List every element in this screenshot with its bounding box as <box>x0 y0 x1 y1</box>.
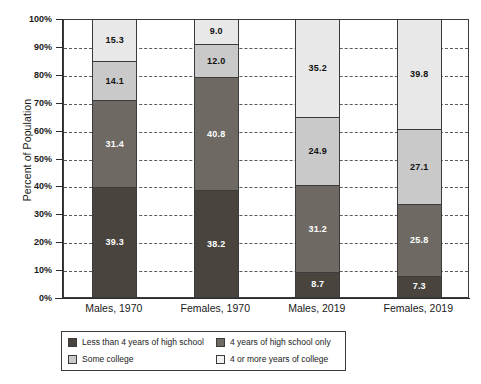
bar-segment[interactable]: 8.7 <box>296 273 339 297</box>
bar-segment-value-label: 8.7 <box>311 280 324 289</box>
legend-swatch <box>68 355 77 364</box>
legend-item[interactable]: 4 years of high school only <box>216 338 353 347</box>
x-axis-category-label: Males, 1970 <box>63 302 165 314</box>
y-axis-tick <box>56 270 62 271</box>
y-axis-tick-label: 70% <box>18 98 52 108</box>
y-axis-tick-label: 60% <box>18 126 52 136</box>
legend-label: Some college <box>82 355 134 364</box>
stacked-bar-chart: Percent of Population 0%10%20%30%40%50%6… <box>0 0 481 384</box>
bar-segment[interactable]: 31.4 <box>93 101 136 188</box>
bar-group: 9.012.040.838.2 <box>166 20 268 297</box>
legend-label: 4 or more years of college <box>230 355 328 364</box>
bar-segment[interactable]: 39.8 <box>398 20 441 130</box>
x-axis-line <box>55 298 470 299</box>
plot-area: 15.314.131.439.39.012.040.838.235.224.93… <box>63 19 469 298</box>
bar-segment[interactable]: 27.1 <box>398 130 441 205</box>
bar-segment-value-label: 9.0 <box>210 27 223 36</box>
y-axis-tick-label: 30% <box>18 209 52 219</box>
bar-group: 35.224.931.28.7 <box>267 20 369 297</box>
y-axis-tick-label: 40% <box>18 181 52 191</box>
legend-item[interactable]: Less than 4 years of high school <box>68 338 216 347</box>
bar-segment[interactable]: 35.2 <box>296 20 339 118</box>
y-axis-tick-label: 50% <box>18 154 52 164</box>
bar-segment-value-label: 39.8 <box>410 70 428 79</box>
y-axis-tick-label: 90% <box>18 42 52 52</box>
bar-segment-value-label: 14.1 <box>106 77 124 86</box>
bar-segment[interactable]: 38.2 <box>195 191 238 297</box>
bar-segment-value-label: 7.3 <box>413 282 426 291</box>
y-axis-tick <box>56 19 62 20</box>
bar-segment[interactable]: 40.8 <box>195 78 238 191</box>
x-axis-category-label: Females, 1970 <box>165 302 267 314</box>
y-axis-tick-label: 80% <box>18 70 52 80</box>
y-axis-tick <box>56 159 62 160</box>
y-axis-tick <box>56 75 62 76</box>
bar-segment-value-label: 39.3 <box>106 238 124 247</box>
bar-segment-value-label: 38.2 <box>207 240 225 249</box>
bar-group: 39.827.125.87.3 <box>369 20 471 297</box>
y-axis-tick <box>56 103 62 104</box>
bar-segment-value-label: 12.0 <box>207 57 225 66</box>
bar-segment[interactable]: 12.0 <box>195 45 238 78</box>
stacked-bar[interactable]: 35.224.931.28.7 <box>295 20 340 297</box>
legend-item[interactable]: Some college <box>68 355 216 364</box>
bar-segment-value-label: 25.8 <box>410 236 428 245</box>
bar-segment-value-label: 31.2 <box>309 225 327 234</box>
x-axis-category-label: Males, 2019 <box>266 302 368 314</box>
y-axis-tick-label: 100% <box>18 14 52 24</box>
stacked-bar[interactable]: 39.827.125.87.3 <box>397 20 442 297</box>
y-axis-tick <box>56 47 62 48</box>
bar-segment[interactable]: 31.2 <box>296 186 339 272</box>
bar-segment-value-label: 35.2 <box>309 64 327 73</box>
y-axis-tick-label: 0% <box>18 293 52 303</box>
y-axis-tick <box>56 186 62 187</box>
x-axis-category-label: Females, 2019 <box>368 302 470 314</box>
y-axis-tick <box>56 214 62 215</box>
bar-segment[interactable]: 15.3 <box>93 20 136 62</box>
stacked-bar[interactable]: 15.314.131.439.3 <box>92 20 137 297</box>
stacked-bar[interactable]: 9.012.040.838.2 <box>194 20 239 297</box>
legend-label: Less than 4 years of high school <box>82 338 204 347</box>
bar-segment[interactable]: 14.1 <box>93 62 136 101</box>
y-axis-tick-label: 10% <box>18 265 52 275</box>
legend-swatch <box>216 338 225 347</box>
bar-segment[interactable]: 39.3 <box>93 188 136 297</box>
legend-swatch <box>68 338 77 347</box>
y-axis-tick <box>56 131 62 132</box>
bar-segment-value-label: 31.4 <box>106 140 124 149</box>
legend-label: 4 years of high school only <box>230 338 331 347</box>
bar-segment[interactable]: 25.8 <box>398 205 441 276</box>
y-axis-tick-label: 20% <box>18 237 52 247</box>
bar-segment-value-label: 27.1 <box>410 163 428 172</box>
bar-segment-value-label: 24.9 <box>309 147 327 156</box>
y-axis-tick <box>56 242 62 243</box>
legend-swatch <box>216 355 225 364</box>
bar-segment-value-label: 15.3 <box>106 36 124 45</box>
legend-item[interactable]: 4 or more years of college <box>216 355 353 364</box>
bar-segment[interactable]: 24.9 <box>296 118 339 187</box>
bar-segment[interactable]: 9.0 <box>195 20 238 45</box>
y-axis-tick <box>56 298 62 299</box>
chart-legend: Less than 4 years of high school4 years … <box>61 331 346 371</box>
bar-segment[interactable]: 7.3 <box>398 277 441 297</box>
bar-segment-value-label: 40.8 <box>207 130 225 139</box>
bar-group: 15.314.131.439.3 <box>64 20 166 297</box>
